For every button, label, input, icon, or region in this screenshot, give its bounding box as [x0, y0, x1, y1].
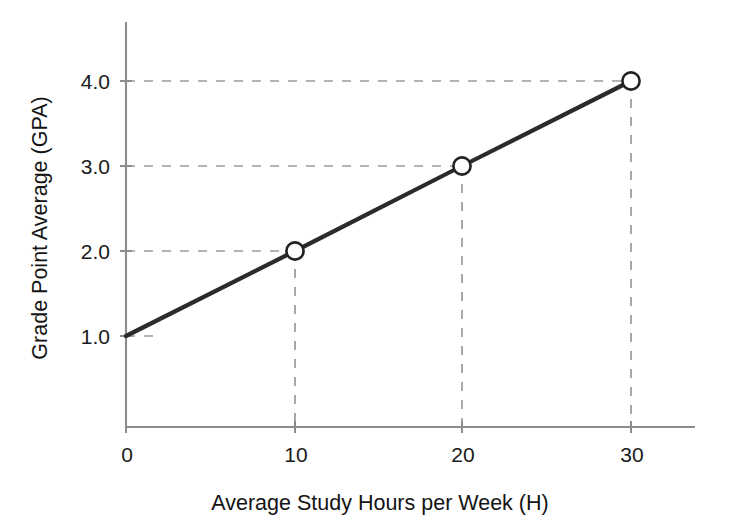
x-tick-label-20: 20 [451, 443, 474, 466]
data-markers [286, 72, 639, 259]
y-tick-label-1-0: 1.0 [81, 325, 110, 348]
x-axis-title: Average Study Hours per Week (H) [211, 491, 548, 515]
line-chart: 4.0 3.0 2.0 1.0 0 10 20 30 Average Study… [0, 0, 729, 532]
data-point-30-4-0[interactable] [622, 72, 639, 89]
y-tick-label-3-0: 3.0 [81, 155, 110, 178]
data-series-line [126, 81, 631, 336]
x-tick-label-30: 30 [620, 443, 643, 466]
y-tick-label-2-0: 2.0 [81, 240, 110, 263]
vertical-guide-lines [295, 81, 631, 427]
y-axis-title: Grade Point Average (GPA) [28, 96, 52, 359]
x-tick-label-0: 0 [121, 443, 133, 466]
horizontal-guide-lines [126, 81, 631, 251]
y-tick-label-4-0: 4.0 [81, 70, 110, 93]
chart-container: 4.0 3.0 2.0 1.0 0 10 20 30 Average Study… [0, 0, 729, 532]
data-point-10-2-0[interactable] [286, 242, 303, 259]
x-tick-label-10: 10 [284, 443, 307, 466]
data-point-20-3-0[interactable] [453, 157, 470, 174]
